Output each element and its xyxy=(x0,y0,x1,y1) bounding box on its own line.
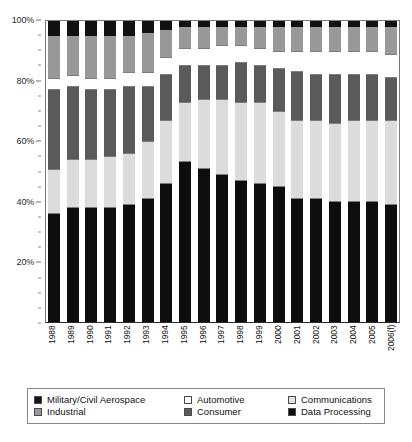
x-axis-label: 1998 xyxy=(235,325,247,377)
x-axis-label: 2004 xyxy=(348,325,360,377)
y-axis-tick xyxy=(36,80,41,81)
bar-segment xyxy=(198,99,210,168)
bar-segment xyxy=(160,75,172,120)
bar-segment xyxy=(254,184,266,322)
bar-segment xyxy=(273,51,285,69)
bar-segment xyxy=(179,162,191,322)
bar-segment xyxy=(235,63,247,102)
bar-segment xyxy=(104,21,116,36)
y-axis-label: 60% xyxy=(17,136,34,146)
bar xyxy=(160,21,172,322)
legend-item[interactable]: Communications xyxy=(288,394,372,405)
bar-segment xyxy=(329,75,341,123)
y-axis-tick xyxy=(36,201,41,202)
bar-segment xyxy=(123,72,135,87)
bar-segment xyxy=(142,33,154,72)
bar-segment xyxy=(291,72,303,120)
legend-row: Military/Civil AerospaceAutomotiveCommun… xyxy=(34,394,378,405)
bar-segment xyxy=(366,51,378,75)
bar-segment xyxy=(67,159,79,207)
y-axis-minor-tick xyxy=(38,171,41,172)
bar-segment xyxy=(366,120,378,201)
bar-segment xyxy=(48,21,60,36)
bar-segment xyxy=(85,36,97,78)
bar-segment xyxy=(366,27,378,51)
y-axis-minor-tick xyxy=(38,232,41,233)
bar-segment xyxy=(85,90,97,159)
bar-segment xyxy=(385,205,397,322)
y-axis-tick xyxy=(36,20,41,21)
x-axis-label: 1999 xyxy=(254,325,266,377)
bar-segment xyxy=(310,120,322,198)
bar-segment xyxy=(123,21,135,36)
legend-swatch-icon xyxy=(288,396,296,404)
bar-segment xyxy=(85,159,97,207)
bar-segment xyxy=(235,102,247,180)
bar-segment xyxy=(348,120,360,201)
bar-segment xyxy=(104,78,116,90)
bar-segment xyxy=(67,87,79,159)
y-axis-minor-tick xyxy=(38,323,41,324)
legend-swatch-icon xyxy=(288,408,296,416)
legend-item[interactable]: Automotive xyxy=(184,394,288,405)
x-axis-label: 2000 xyxy=(273,325,285,377)
bar xyxy=(85,21,97,322)
chart-legend: Military/Civil AerospaceAutomotiveCommun… xyxy=(27,388,385,424)
y-axis-minor-tick xyxy=(38,126,41,127)
bar-segment xyxy=(348,75,360,120)
x-axis-label: 2005 xyxy=(367,325,379,377)
bar xyxy=(254,21,266,322)
x-axis-label: 2006(f) xyxy=(386,325,398,377)
bar-segment xyxy=(366,202,378,322)
legend-swatch-icon xyxy=(184,396,192,404)
bar-segment xyxy=(104,36,116,78)
y-axis-tick xyxy=(36,141,41,142)
bar-segment xyxy=(216,66,228,99)
bar-segment xyxy=(48,90,60,168)
legend-swatch-icon xyxy=(34,396,42,404)
legend-row: IndustrialConsumerData Processing xyxy=(34,406,378,417)
legend-item[interactable]: Industrial xyxy=(34,406,184,417)
bar-segment xyxy=(329,27,341,51)
bar xyxy=(216,21,228,322)
bar xyxy=(291,21,303,322)
bar-segment xyxy=(235,45,247,63)
bar-segment xyxy=(123,36,135,72)
bar-segment xyxy=(348,202,360,322)
bar xyxy=(123,21,135,322)
bar-segment xyxy=(385,27,397,54)
bar-segment xyxy=(329,123,341,201)
bar-segment xyxy=(273,69,285,111)
bar-segment xyxy=(310,75,322,120)
bar-segment xyxy=(216,45,228,66)
legend-item[interactable]: Data Processing xyxy=(288,406,371,417)
bar-segment xyxy=(198,169,210,323)
x-axis-label: 1994 xyxy=(160,325,172,377)
bar-segment xyxy=(235,181,247,322)
x-axis-label: 1996 xyxy=(198,325,210,377)
bar-segment xyxy=(273,27,285,51)
bar-segment xyxy=(160,21,172,30)
legend-item[interactable]: Consumer xyxy=(184,406,288,417)
bar-segment xyxy=(160,120,172,183)
bar xyxy=(273,21,285,322)
y-axis-label: 20% xyxy=(17,257,34,267)
x-axis-label: 1988 xyxy=(47,325,59,377)
legend-item[interactable]: Military/Civil Aerospace xyxy=(34,394,184,405)
y-axis-minor-tick xyxy=(38,186,41,187)
bar-segment xyxy=(310,199,322,322)
bar xyxy=(329,21,341,322)
bar-segment xyxy=(366,75,378,120)
y-axis-tick xyxy=(36,262,41,263)
bar-segment xyxy=(198,66,210,99)
y-axis-minor-tick xyxy=(38,35,41,36)
y-axis: 100%80%60%40%20% xyxy=(0,20,41,323)
bar-segment xyxy=(67,21,79,36)
bar-segment xyxy=(385,78,397,120)
bar xyxy=(235,21,247,322)
y-axis-minor-tick xyxy=(38,110,41,111)
bar xyxy=(348,21,360,322)
x-axis-label: 1993 xyxy=(141,325,153,377)
bar-segment xyxy=(198,27,210,48)
bar xyxy=(366,21,378,322)
